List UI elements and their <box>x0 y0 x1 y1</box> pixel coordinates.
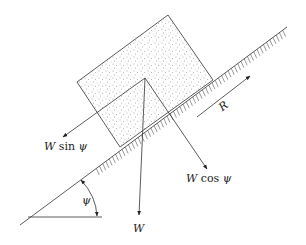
diagram-canvas: W sin ψ W cos ψ W R ψ <box>0 0 306 245</box>
label-w: W <box>133 222 146 235</box>
label-w-cos: W cos ψ <box>186 172 232 185</box>
label-w-sin: W sin ψ <box>44 140 88 153</box>
label-angle: ψ <box>82 194 91 207</box>
